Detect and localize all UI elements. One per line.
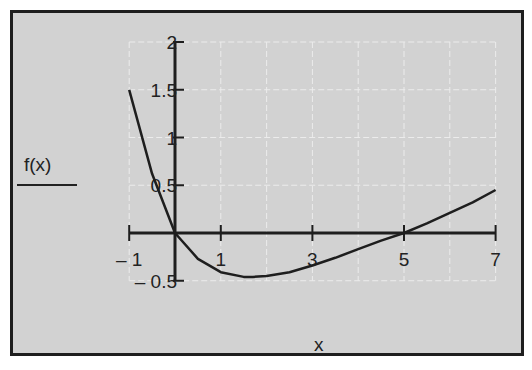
y-axis-label: f(x)	[24, 154, 51, 176]
x-tick-label: 5	[399, 249, 410, 270]
y-tick-label: – 0.5	[135, 271, 177, 292]
y-tick-label: 2	[166, 32, 177, 53]
y-tick-label: 1.5	[151, 80, 177, 101]
x-tick-label: 7	[490, 249, 501, 270]
y-tick-label: 1	[166, 128, 177, 149]
x-tick-label: – 1	[116, 249, 142, 270]
x-tick-label: 1	[216, 249, 227, 270]
y-axis-label-underline	[17, 184, 77, 186]
x-axis-label: x	[314, 334, 324, 356]
line-plot: – 11357– 0.50.511.52	[0, 0, 532, 370]
